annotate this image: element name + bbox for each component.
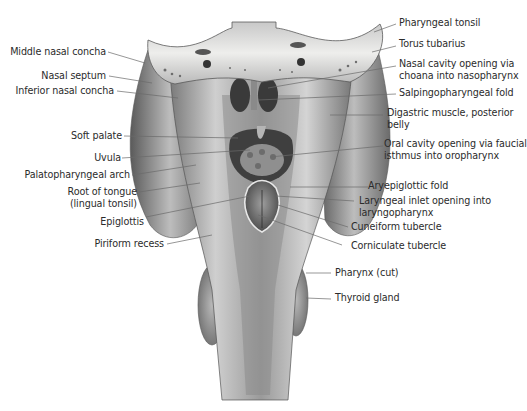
label-laryngeal-inlet: Laryngeal inlet opening into laryngophar… [359, 195, 491, 218]
label-uvula: Uvula [94, 152, 121, 164]
label-laryngeal-inlet-line1: Laryngeal inlet opening into [359, 195, 491, 207]
label-digastric-muscle-line1: Digastric muscle, posterior [387, 107, 513, 119]
label-digastric-muscle-line2: belly [387, 119, 513, 131]
label-oral-cavity-opening-line2: isthmus into oropharynx [384, 150, 527, 162]
label-cuneiform-tubercle: Cuneiform tubercle [351, 221, 441, 233]
label-nasal-cavity-opening: Nasal cavity opening via choana into nas… [399, 58, 519, 81]
label-soft-palate: Soft palate [71, 130, 122, 142]
label-pharyngeal-tonsil: Pharyngeal tonsil [399, 17, 480, 29]
label-root-of-tongue-line2: (lingual tonsil) [68, 198, 137, 210]
label-epiglottis: Epiglottis [100, 216, 144, 228]
label-corniculate-tubercle: Corniculate tubercle [351, 240, 446, 252]
label-thyroid-gland: Thyroid gland [335, 292, 400, 304]
label-oral-cavity-opening: Oral cavity opening via faucial isthmus … [384, 138, 527, 161]
label-aryepiglottic-fold: Aryepiglottic fold [368, 180, 448, 192]
label-laryngeal-inlet-line2: laryngopharynx [359, 207, 491, 219]
label-nasal-septum: Nasal septum [41, 70, 106, 82]
label-root-of-tongue-line1: Root of tongue [68, 186, 137, 198]
label-piriform-recess: Piriform recess [94, 238, 164, 250]
label-oral-cavity-opening-line1: Oral cavity opening via faucial [384, 138, 527, 150]
label-torus-tubarius: Torus tubarius [399, 38, 465, 50]
label-digastric-muscle: Digastric muscle, posterior belly [387, 107, 513, 130]
label-salpingopharyngeal-fold: Salpingopharyngeal fold [399, 87, 513, 99]
choanae-shape [230, 78, 278, 112]
label-nasal-cavity-opening-line1: Nasal cavity opening via [399, 58, 519, 70]
label-middle-nasal-concha: Middle nasal concha [10, 46, 106, 58]
label-inferior-nasal-concha: Inferior nasal concha [15, 85, 114, 97]
label-root-of-tongue: Root of tongue (lingual tonsil) [68, 186, 137, 209]
label-nasal-cavity-opening-line2: choana into nasopharynx [399, 70, 519, 82]
label-palatopharyngeal-arch: Palatopharyngeal arch [24, 169, 130, 181]
label-pharynx-cut: Pharynx (cut) [335, 267, 398, 279]
